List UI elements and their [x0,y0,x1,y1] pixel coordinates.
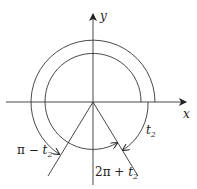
y-axis-label: y [99,9,107,23]
label-t2: t2 [146,123,156,139]
ray-left [48,102,93,176]
x-axis-label: x [183,107,190,121]
label-two-pi-plus-t2: 2π + t2 [95,165,138,181]
arc-t2 [123,102,148,150]
angle-diagram: y x t2 π − t2 2π + t2 [0,0,197,189]
label-pi-minus-t2: π − t2 [17,143,53,159]
